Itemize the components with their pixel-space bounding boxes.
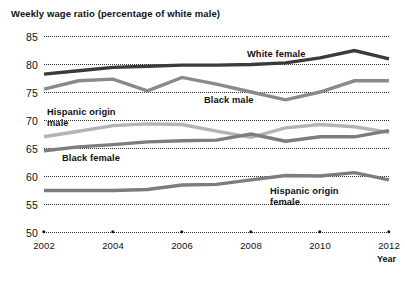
y-axis-tick-label-85: 85 bbox=[26, 31, 38, 43]
x-axis-tick-label-2008: 2008 bbox=[240, 240, 262, 251]
series-label-hispanic-origin-male: Hispanic origin male bbox=[47, 107, 116, 129]
gridline-50: 50 bbox=[44, 232, 389, 233]
y-axis-tick-label-70: 70 bbox=[26, 115, 38, 127]
chart-canvas: Weekly wage ratio (percentage of white m… bbox=[0, 0, 405, 282]
series-label-black-female: Black female bbox=[62, 153, 120, 164]
series-label-hispanic-origin-female: Hispanic origin female bbox=[270, 186, 339, 208]
x-axis-title: Year bbox=[377, 254, 396, 264]
y-axis-tick-label-50: 50 bbox=[26, 227, 38, 239]
x-axis-tick-dot-2012 bbox=[387, 230, 390, 233]
y-axis-tick-label-65: 65 bbox=[26, 143, 38, 155]
series-line-white-female bbox=[44, 51, 389, 75]
series-label-black-male: Black male bbox=[204, 95, 254, 106]
y-axis-tick-label-75: 75 bbox=[26, 87, 38, 99]
x-axis-tick-label-2004: 2004 bbox=[102, 240, 124, 251]
y-axis-tick-label-80: 80 bbox=[26, 59, 38, 71]
y-axis-tick-label-60: 60 bbox=[26, 171, 38, 183]
x-axis-tick-dot-2002 bbox=[42, 230, 45, 233]
x-axis-tick-dot-2004 bbox=[111, 230, 114, 233]
x-axis-tick-label-2006: 2006 bbox=[171, 240, 193, 251]
series-line-black-female bbox=[44, 131, 389, 151]
chart-title: Weekly wage ratio (percentage of white m… bbox=[11, 8, 220, 19]
x-axis-tick-dot-2006 bbox=[180, 230, 183, 233]
y-axis-tick-label-55: 55 bbox=[26, 199, 38, 211]
x-axis-tick-label-2010: 2010 bbox=[309, 240, 331, 251]
x-axis-tick-label-2012: 2012 bbox=[378, 240, 400, 251]
x-axis-tick-dot-2008 bbox=[249, 230, 252, 233]
x-axis-tick-label-2002: 2002 bbox=[33, 240, 55, 251]
plot-area: 5055606570758085 20022004200620082010201… bbox=[44, 36, 389, 232]
x-axis-tick-dot-2010 bbox=[318, 230, 321, 233]
series-label-white-female: White female bbox=[247, 49, 306, 60]
